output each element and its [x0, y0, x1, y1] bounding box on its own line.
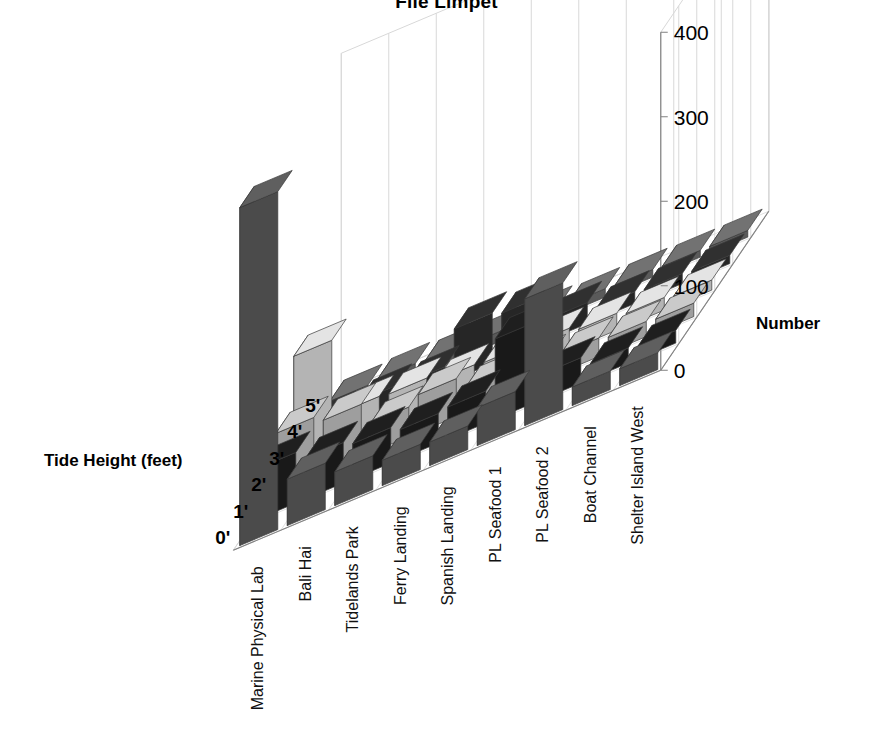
- tide-tick-label: 5': [305, 395, 320, 416]
- tide-tick-label: 4': [287, 421, 302, 442]
- page-title: File Limpet: [0, 0, 893, 13]
- site-tick-label: PL Seafood 2: [534, 446, 551, 542]
- site-tick-label: Marine Physical Lab: [249, 566, 266, 710]
- chart-canvas: 0100200300400Number0'1'2'3'4'5'Tide Heig…: [0, 0, 893, 747]
- site-tick-label: Spanish Landing: [439, 486, 456, 605]
- site-tick-label: Bali Hai: [297, 546, 314, 601]
- tide-tick-label: 2': [251, 474, 266, 495]
- site-tick-label: Boat Channel: [582, 426, 599, 523]
- value-tick-label: 200: [674, 190, 709, 213]
- value-tick-label: 100: [674, 275, 709, 298]
- site-tick-label: PL Seafood 1: [487, 466, 504, 562]
- tide-axis-label: Tide Height (feet): [44, 451, 183, 470]
- tide-tick-label: 3': [269, 448, 284, 469]
- value-tick-label: 0: [674, 359, 686, 382]
- value-tick-label: 400: [674, 21, 709, 44]
- tide-tick-label: 1': [233, 501, 248, 522]
- site-tick-label: Shelter Island West: [629, 406, 646, 545]
- value-tick-label: 300: [674, 106, 709, 129]
- chart-3d-bar: File Limpet 0100200300400Number0'1'2'3'4…: [0, 0, 893, 747]
- tide-tick-label: 0': [215, 527, 230, 548]
- site-tick-label: Ferry Landing: [392, 506, 409, 605]
- site-tick-label: Tidelands Park: [344, 525, 361, 632]
- value-axis-label: Number: [756, 314, 821, 333]
